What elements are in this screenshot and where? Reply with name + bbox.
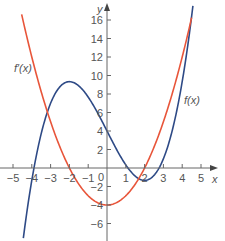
chart: −5−4−3−2−112345 −6−4−2246810121416 x y 0… [0, 0, 225, 241]
fprime-curve-label: f′(x) [14, 62, 32, 74]
x-axis-label: x [211, 173, 218, 185]
y-tick-label: −6 [90, 218, 103, 230]
x-tick-label: 2 [142, 172, 148, 184]
x-tick-label: −3 [44, 172, 57, 184]
x-tick-label: −4 [26, 172, 39, 184]
axes: −5−4−3−2−112345 −6−4−2246810121416 [0, 3, 218, 241]
y-tick-label: 2 [97, 144, 103, 156]
x-tick-label: −2 [63, 172, 76, 184]
y-tick-label: 14 [91, 33, 103, 45]
x-tick-label: 4 [179, 172, 185, 184]
y-tick-label: 10 [91, 70, 103, 82]
y-tick-label: 6 [97, 107, 103, 119]
y-tick-label: 16 [91, 14, 103, 26]
f-curve [23, 6, 193, 238]
x-tick-label: −5 [7, 172, 20, 184]
x-tick-label: 3 [160, 172, 166, 184]
x-ticks: −5−4−3−2−112345 [7, 164, 204, 184]
y-tick-label: 8 [97, 88, 103, 100]
origin-label: 0 [98, 171, 104, 183]
y-tick-label: −4 [90, 199, 103, 211]
y-ticks: −6−4−2246810121416 [90, 14, 111, 230]
f-curve-label: f(x) [184, 94, 200, 106]
x-tick-label: 1 [123, 172, 129, 184]
x-tick-label: 5 [198, 172, 204, 184]
y-tick-label: 12 [91, 51, 103, 63]
x-axis-arrow-icon [210, 165, 218, 171]
y-axis-arrow-icon [104, 3, 110, 11]
y-tick-label: 4 [97, 125, 103, 137]
